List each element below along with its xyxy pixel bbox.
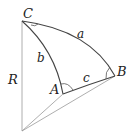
radius-oa: [22, 94, 63, 131]
radius-label: R: [7, 72, 18, 87]
arc-a: [22, 21, 115, 76]
side-label-a: a: [77, 27, 84, 41]
angle-mark-a: [61, 84, 73, 90]
angle-mark-b: [106, 67, 110, 79]
vertex-label-b: B: [116, 64, 127, 79]
side-label-b: b: [37, 51, 45, 65]
radius-ob: [22, 76, 115, 131]
side-label-c: c: [83, 71, 90, 85]
angle-mark-c: [31, 24, 38, 26]
vertex-label-c: C: [23, 6, 33, 21]
spherical-triangle-diagram: C B A a b c R: [0, 0, 135, 137]
vertex-label-a: A: [49, 82, 59, 97]
